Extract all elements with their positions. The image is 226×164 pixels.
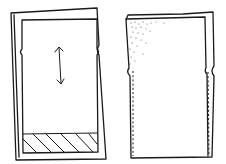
right-outer-frame [126,12,214,158]
stipple-shading [129,21,164,64]
sketch-diagram [0,0,226,164]
scroll-arrow-icon [55,47,64,84]
left-panel [11,8,106,160]
hatched-footer [23,133,97,152]
right-frame-inner-edge [126,17,208,156]
right-panel [126,12,214,158]
